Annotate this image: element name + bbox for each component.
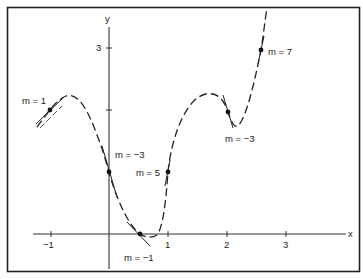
y-tick-label-3: 3	[96, 43, 101, 53]
y-axis-label: y	[105, 14, 110, 24]
point-m-neg3-a	[107, 170, 112, 175]
slope-diagram: y x −1 1 2 3 3 m = 1 m = −3 m = −1 m = 5…	[0, 0, 363, 279]
point-m5	[166, 170, 171, 175]
slope-label-m7: m = 7	[268, 47, 292, 57]
x-tick-label-1: 1	[165, 240, 170, 250]
x-tick-label-2: 2	[224, 240, 229, 250]
slope-label-m1: m = 1	[22, 96, 46, 106]
x-axis-label: x	[348, 229, 353, 239]
slope-label-m-neg1: m = −1	[124, 253, 154, 263]
x-tick-label-3: 3	[283, 240, 288, 250]
slope-label-m-neg3-a: m = −3	[115, 150, 145, 160]
slope-label-m-neg3-b: m = −3	[225, 134, 255, 144]
frame-border	[8, 8, 360, 272]
diagram-canvas	[0, 0, 363, 279]
x-tick-label-neg1: −1	[43, 240, 54, 250]
point-m-neg1	[138, 232, 143, 237]
function-curve	[37, 8, 267, 237]
point-m-neg3-b	[226, 110, 231, 115]
slope-label-m5: m = 5	[136, 168, 160, 178]
point-m7	[259, 48, 264, 53]
point-m1	[48, 108, 53, 113]
